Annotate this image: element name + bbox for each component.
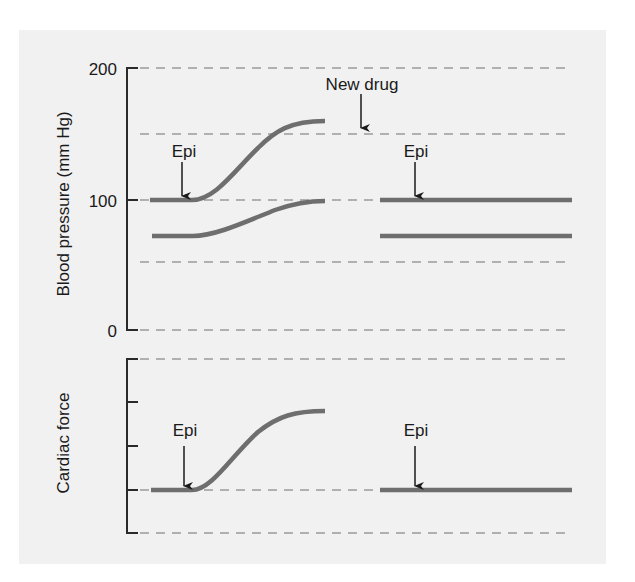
new-drug-label: New drug <box>326 75 399 94</box>
chart: 200 100 0 Blood pressure (mm Hg) Epi New… <box>0 0 635 582</box>
cf-epi-label-1: Epi <box>173 421 198 440</box>
bp-epi-label-2: Epi <box>404 142 429 161</box>
bp-tick-label-0: 0 <box>108 322 117 341</box>
cardiac-force-chart: Cardiac force Epi Epi <box>54 358 572 534</box>
bp-traces-after-drug <box>380 200 572 236</box>
cf-y-axis-title: Cardiac force <box>54 392 73 493</box>
diastolic-trace-1 <box>152 201 325 236</box>
bp-epi-label-1: Epi <box>172 142 197 161</box>
bp-traces-before-drug <box>150 121 325 236</box>
bp-y-axis <box>127 67 138 331</box>
cf-gridlines <box>140 359 572 533</box>
bp-tick-label-200: 200 <box>89 60 117 79</box>
bp-tick-label-100: 100 <box>89 192 117 211</box>
bp-y-axis-title: Blood pressure (mm Hg) <box>54 111 73 296</box>
cf-traces <box>151 411 572 490</box>
cf-y-axis <box>127 358 138 534</box>
blood-pressure-chart: 200 100 0 Blood pressure (mm Hg) Epi New… <box>54 60 572 341</box>
cf-epi-label-2: Epi <box>404 421 429 440</box>
